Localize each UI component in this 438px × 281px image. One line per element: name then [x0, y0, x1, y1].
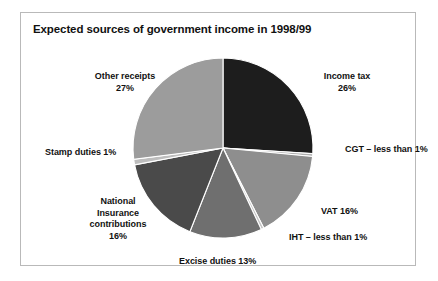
pie-label-income-tax: Income tax 26% — [299, 71, 395, 94]
pie-label-national-insurance-l3: contributions — [74, 219, 162, 231]
pie-label-national-insurance-l4: 16% — [74, 231, 162, 243]
pie-label-other-receipts-name: Other receipts — [77, 71, 173, 83]
pie-label-income-tax-name: Income tax — [299, 71, 395, 83]
pie-label-other-receipts: Other receipts 27% — [77, 71, 173, 94]
pie-label-national-insurance-l2: Insurance — [74, 208, 162, 220]
pie-label-vat: VAT 16% — [321, 206, 358, 218]
pie-label-stamp-duties: Stamp duties 1% — [45, 147, 116, 159]
pie-label-income-tax-value: 26% — [299, 83, 395, 95]
pie-label-excise-duties: Excise duties 13% — [179, 256, 256, 268]
pie-label-national-insurance-l1: National — [74, 196, 162, 208]
pie-label-other-receipts-value: 27% — [77, 83, 173, 95]
chart-figure: Expected sources of government income in… — [20, 12, 416, 266]
pie-label-iht: IHT – less than 1% — [289, 232, 367, 244]
pie-label-national-insurance: National Insurance contributions 16% — [74, 196, 162, 242]
pie-label-cgt: CGT – less than 1% — [345, 144, 428, 156]
